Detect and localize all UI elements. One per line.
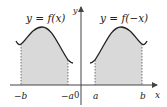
x-axis-label: x [155, 90, 160, 100]
label-f-neg-x: y = f(−x) [99, 12, 148, 24]
tick-a: a [93, 91, 98, 101]
tick-neg-b: −b [14, 91, 28, 101]
label-f-x: y = f(x) [25, 12, 65, 24]
y-axis-label: y [72, 6, 78, 15]
tick-neg-a: −a [61, 91, 74, 101]
diagram-canvas: y = f(x) y = f(−x) y x 0 −b −a a b [0, 0, 167, 107]
origin-label: 0 [74, 90, 79, 100]
tick-b: b [140, 91, 146, 101]
